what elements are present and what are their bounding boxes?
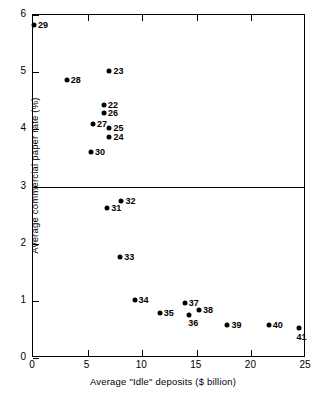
y-tick-label-5: 5 [2,66,26,76]
plot-area: 2928232226272524303231333435373638394041 [32,14,305,357]
y-tick-label-6: 6 [2,9,26,19]
data-point-label-29: 29 [38,21,48,30]
x-tick-top-10 [142,15,143,21]
data-point-22 [101,103,106,108]
data-point-label-39: 39 [231,321,241,330]
x-tick-label-15: 15 [181,360,211,370]
x-tick-20 [251,350,252,356]
data-point-33 [118,254,123,259]
y-tick-label-3: 3 [2,181,26,191]
x-tick-15 [197,350,198,356]
data-point-27 [91,121,96,126]
data-point-24 [107,134,112,139]
x-tick-top-5 [88,15,89,21]
data-point-37 [182,300,187,305]
data-point-label-32: 32 [125,197,135,206]
x-tick-label-5: 5 [72,360,102,370]
x-axis-title: Average "Idle" deposits ($ billion) [0,376,326,387]
data-point-41 [297,326,302,331]
data-point-label-23: 23 [113,67,123,76]
data-point-39 [225,323,230,328]
data-point-35 [157,311,162,316]
data-point-36 [187,312,192,317]
data-point-25 [107,125,112,130]
data-point-label-36: 36 [188,319,198,328]
data-point-label-37: 37 [189,299,199,308]
y-tick-label-1: 1 [2,295,26,305]
data-point-28 [64,77,69,82]
data-point-label-34: 34 [139,296,149,305]
data-point-34 [132,297,137,302]
data-point-38 [196,307,201,312]
data-point-label-26: 26 [108,109,118,118]
y-tick-5 [33,72,39,73]
data-point-label-31: 31 [111,204,121,213]
scatter-chart-figure: Average commercial paper rate (%) Averag… [0,0,326,397]
data-point-label-38: 38 [203,306,213,315]
data-point-label-30: 30 [95,148,105,157]
y-tick-label-2: 2 [2,238,26,248]
x-tick-top-20 [251,15,252,21]
y-tick-6 [33,15,39,16]
x-tick-10 [142,350,143,356]
data-point-label-40: 40 [273,321,283,330]
x-tick-top-15 [197,15,198,21]
x-tick-5 [88,350,89,356]
data-point-label-33: 33 [124,253,134,262]
y-tick-label-4: 4 [2,123,26,133]
y-tick-1 [33,301,39,302]
data-point-label-27: 27 [97,120,107,129]
data-point-31 [105,205,110,210]
x-tick-label-0: 0 [17,360,47,370]
y-tick-2 [33,244,39,245]
data-point-26 [101,110,106,115]
data-point-23 [107,69,112,74]
y-tick-4 [33,129,39,130]
data-point-label-41: 41 [296,333,306,342]
data-point-label-35: 35 [164,309,174,318]
data-point-40 [266,323,271,328]
data-point-29 [32,22,37,27]
data-point-label-28: 28 [71,76,81,85]
x-tick-label-10: 10 [126,360,156,370]
x-tick-label-25: 25 [290,360,320,370]
data-point-30 [88,150,93,155]
data-point-label-24: 24 [113,133,123,142]
reference-line-3 [33,187,304,188]
x-tick-label-20: 20 [235,360,265,370]
